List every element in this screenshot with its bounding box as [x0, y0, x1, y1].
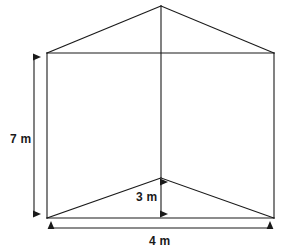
dimension-label-floor-height: 3 m [134, 190, 159, 204]
diagram-canvas: 7 m 3 m 4 m [0, 0, 290, 252]
floor-fold-right [161, 178, 274, 218]
dimension-label-width: 4 m [147, 234, 172, 248]
tent-prism-figure [0, 0, 290, 252]
dimension-label-height: 7 m [8, 132, 33, 146]
roof-edge-right [161, 6, 274, 53]
roof-edge-left [47, 6, 161, 53]
